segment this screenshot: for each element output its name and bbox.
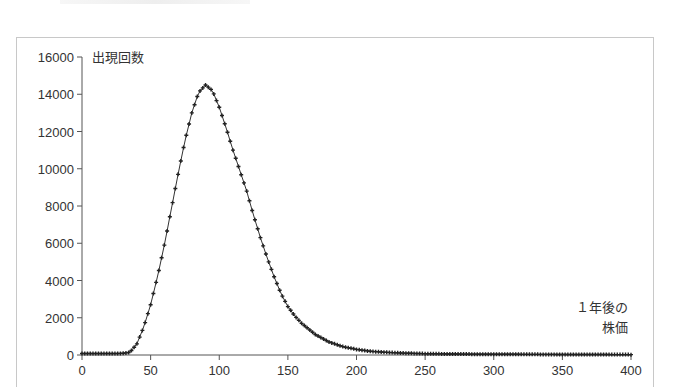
y-axis-label: 出現回数 (92, 50, 144, 65)
x-tick-label: 150 (277, 363, 299, 378)
x-tick-label: 100 (208, 363, 230, 378)
y-tick-label: 6000 (45, 236, 74, 251)
y-tick-label: 2000 (45, 311, 74, 326)
x-tick-label: 50 (143, 363, 157, 378)
x-tick-label: 0 (78, 363, 85, 378)
y-tick-label: 12000 (38, 125, 74, 140)
x-tick-label: 400 (620, 363, 642, 378)
x-tick-label: 200 (346, 363, 368, 378)
y-tick-label: 10000 (38, 162, 74, 177)
y-tick-label: 16000 (38, 50, 74, 65)
y-tick-label: 8000 (45, 199, 74, 214)
y-tick-label: 14000 (38, 87, 74, 102)
x-axis-label-line2: 株価 (602, 320, 628, 335)
x-tick-label: 250 (414, 363, 436, 378)
x-tick-label: 300 (483, 363, 505, 378)
data-markers (80, 83, 633, 357)
data-line (82, 85, 631, 355)
y-tick-label: 0 (67, 348, 74, 363)
tick-labels: 0200040006000800010000120001400016000050… (38, 50, 642, 378)
x-axis-label-line1: １年後の (576, 300, 628, 315)
y-tick-label: 4000 (45, 274, 74, 289)
x-tick-label: 350 (552, 363, 574, 378)
axes (77, 57, 631, 360)
